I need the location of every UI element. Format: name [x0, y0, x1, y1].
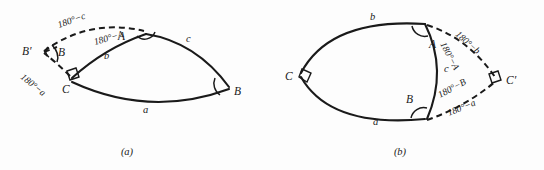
panel-b-side-b-arc	[301, 23, 425, 73]
panel-a-side-label-a: a	[143, 104, 148, 115]
panel-b-supp-label-B: 180°−B	[436, 77, 468, 100]
panel-b-side-label-a: a	[373, 116, 378, 127]
panel-b-caption: (b)	[394, 146, 407, 158]
panel-b-angle-arc-B	[411, 108, 427, 118]
spherical-triangle-figure: A B C B′ B a b c 180°−c 180°−A 180°−a (a…	[0, 0, 544, 170]
panel-b-vertex-label-C-prime: C′	[506, 74, 517, 86]
panel-a-side-label-c: c	[186, 33, 191, 44]
panel-b-right-angle-marker-C-prime	[489, 71, 501, 83]
panel-b-side-label-c: c	[444, 63, 449, 74]
panel-a-caption: (a)	[121, 146, 134, 158]
panel-a-side-a-arc	[72, 82, 229, 102]
panel-a: A B C B′ B a b c 180°−c 180°−A 180°−a (a…	[19, 10, 241, 158]
panel-b-supp-label-a: 180°−a	[446, 98, 477, 118]
panel-a-vertex-label-B-inner: B	[58, 46, 65, 58]
panel-a-vertex-label-B: B	[234, 85, 241, 97]
figure-root: A B C B′ B a b c 180°−c 180°−A 180°−a (a…	[0, 0, 544, 170]
panel-a-side-label-b: b	[104, 50, 109, 61]
panel-b-supp-label-b: 180°−b	[454, 29, 483, 56]
panel-a-supp-label-c: 180°−c	[56, 10, 87, 29]
panel-b: A B C C′ a b c 180°−b 180°−A 180°−B 180°…	[285, 11, 517, 158]
panel-a-vertex-label-C: C	[62, 83, 70, 95]
panel-b-vertex-label-C: C	[285, 70, 293, 82]
panel-b-right-angle-marker-C	[299, 69, 311, 82]
panel-b-vertex-label-B: B	[406, 93, 413, 105]
panel-a-vertex-label-B-prime: B′	[22, 45, 32, 57]
panel-a-supp-label-a: 180°−a	[19, 72, 48, 98]
panel-b-vertex-label-A: A	[428, 38, 437, 50]
panel-b-side-label-b: b	[370, 11, 375, 22]
panel-b-supp-label-A: 180°−A	[438, 40, 461, 72]
